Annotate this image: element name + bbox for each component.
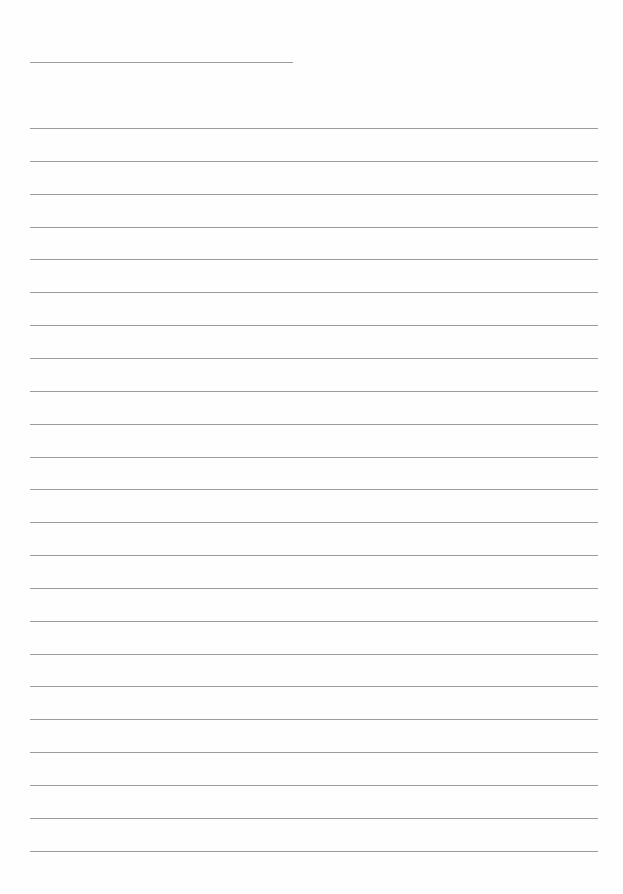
ruled-line: [30, 818, 598, 819]
ruled-line: [30, 424, 598, 425]
ruled-line: [30, 654, 598, 655]
ruled-line: [30, 227, 598, 228]
ruled-line: [30, 325, 598, 326]
ruled-line: [30, 358, 598, 359]
ruled-line: [30, 851, 598, 852]
ruled-line: [30, 259, 598, 260]
ruled-line: [30, 686, 598, 687]
ruled-line: [30, 588, 598, 589]
ruled-line: [30, 391, 598, 392]
ruled-line: [30, 621, 598, 622]
ruled-line: [30, 719, 598, 720]
ruled-line: [30, 752, 598, 753]
ruled-line: [30, 489, 598, 490]
ruled-line: [30, 522, 598, 523]
header-line: [30, 62, 293, 63]
ruled-line: [30, 555, 598, 556]
ruled-line: [30, 128, 598, 129]
ruled-line: [30, 161, 598, 162]
ruled-line: [30, 457, 598, 458]
lined-paper-page: [0, 0, 623, 894]
ruled-line: [30, 194, 598, 195]
ruled-line: [30, 785, 598, 786]
ruled-line: [30, 292, 598, 293]
